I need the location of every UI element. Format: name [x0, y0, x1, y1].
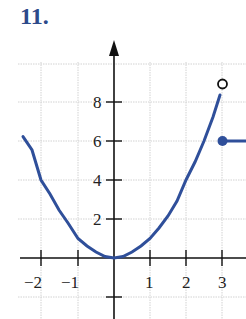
- x-tick-label: 1: [145, 273, 154, 292]
- axes: [20, 48, 246, 319]
- x-tick-label: 3: [218, 273, 227, 292]
- x-tick-label: −2: [24, 273, 42, 292]
- parabola-curve: [23, 95, 220, 258]
- x-tick-label: 2: [182, 273, 191, 292]
- open-circle-icon: [218, 80, 227, 89]
- y-axis-arrow-icon: [109, 40, 119, 56]
- y-tick-label: 2: [93, 210, 102, 229]
- y-tick-label: 8: [93, 93, 102, 112]
- grid: [18, 62, 246, 319]
- filled-circle-icon: [218, 136, 228, 146]
- y-tick-label: 6: [93, 132, 102, 151]
- x-tick-label: −1: [61, 273, 79, 292]
- y-tick-label: 4: [93, 171, 102, 190]
- piecewise-graph: −2 −1 1 2 3 2 4 6 8: [0, 0, 246, 319]
